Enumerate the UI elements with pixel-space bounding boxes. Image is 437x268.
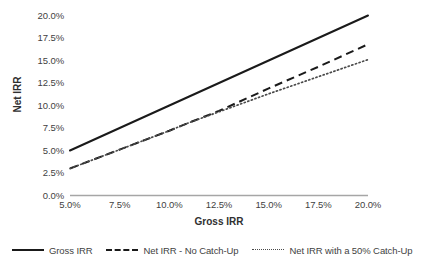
legend-solid-line-icon — [12, 245, 44, 255]
plot-area — [0, 0, 437, 268]
x-tick-label: 5.0% — [47, 199, 93, 210]
y-tick-label: 5.0% — [22, 145, 64, 156]
legend-item[interactable]: Net IRR with a 50% Catch-Up — [252, 245, 412, 256]
y-tick-label: 15.0% — [22, 55, 64, 66]
y-tick-label: 20.0% — [22, 10, 64, 21]
legend-dashed-line-icon — [106, 245, 138, 255]
y-tick-label: 2.5% — [22, 167, 64, 178]
y-tick-label: 12.5% — [22, 77, 64, 88]
series-line-gross-irr — [70, 16, 368, 151]
x-tick-label: 17.5% — [295, 199, 341, 210]
x-tick-label: 10.0% — [146, 199, 192, 210]
x-tick-label: 15.0% — [246, 199, 292, 210]
x-tick-label: 20.0% — [345, 199, 391, 210]
legend-dotted-line-icon — [252, 245, 284, 255]
y-tick-label: 10.0% — [22, 100, 64, 111]
x-tick-label: 12.5% — [196, 199, 242, 210]
legend-item-label: Gross IRR — [49, 245, 92, 256]
legend-item-label: Net IRR with a 50% Catch-Up — [289, 245, 412, 256]
irr-line-chart: 20.0%17.5%15.0%12.5%10.0%7.5%5.0%2.5%0.0… — [0, 0, 437, 268]
series-line-net-irr-no-catch-up — [70, 44, 368, 168]
y-axis-title: Net IRR — [12, 65, 23, 125]
series-line-net-irr-50-catch-up — [70, 60, 368, 169]
legend-item-label: Net IRR - No Catch-Up — [143, 245, 238, 256]
legend-item[interactable]: Net IRR - No Catch-Up — [106, 245, 238, 256]
legend-item[interactable]: Gross IRR — [12, 245, 92, 256]
x-tick-label: 7.5% — [97, 199, 143, 210]
y-tick-label: 7.5% — [22, 122, 64, 133]
x-axis-title: Gross IRR — [70, 216, 368, 227]
chart-legend: Gross IRRNet IRR - No Catch-UpNet IRR wi… — [12, 240, 432, 260]
y-tick-label: 17.5% — [22, 32, 64, 43]
